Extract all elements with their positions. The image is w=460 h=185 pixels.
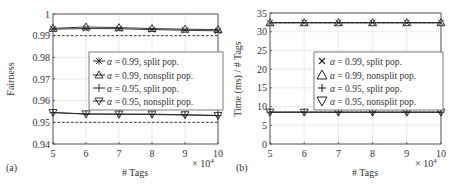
- x-exponent: × 104: [415, 157, 437, 169]
- svg-text:α = 0.99, split pop.: α = 0.99, split pop.: [330, 57, 402, 67]
- x-ticks: 5678910: [51, 142, 224, 159]
- svg-text:α = 0.99, nonsplit pop.: α = 0.99, nonsplit pop.: [330, 71, 416, 81]
- legend-item-alpha-099-nonsplit: α = 0.99, nonsplit pop.: [93, 71, 193, 81]
- x-tick-label: 7: [117, 148, 122, 159]
- y-tick-label: 0.95: [33, 117, 51, 128]
- y-tick-label: 20: [257, 64, 267, 75]
- legend-item-alpha-095-nonsplit: α = 0.95, nonsplit pop.: [317, 97, 416, 107]
- panel-label: (b): [236, 162, 248, 174]
- x-tick-label: 8: [370, 148, 375, 159]
- x-tick-label: 6: [84, 148, 89, 159]
- svg-text:α = 0.95, split pop.: α = 0.95, split pop.: [330, 84, 402, 94]
- y-tick-label: 1: [45, 9, 50, 20]
- series-line: [266, 19, 445, 26]
- x-tick-label: 5: [51, 148, 56, 159]
- x-tick-label: 6: [302, 148, 307, 159]
- y-tick-label: 35: [257, 8, 267, 19]
- y-tick-label: 0.98: [33, 52, 51, 63]
- x-exponent: × 104: [192, 157, 214, 169]
- svg-text:α = 0.95, split pop.: α = 0.95, split pop.: [107, 84, 179, 94]
- y-tick-label: 10: [257, 101, 267, 112]
- x-tick-label: 10: [213, 148, 223, 159]
- series-line: [49, 23, 222, 33]
- y-axis-label: Time (ms) / # Tags: [232, 41, 244, 117]
- x-tick-label: 7: [336, 148, 341, 159]
- legend-item-alpha-099-split: α = 0.99, split pop.: [319, 57, 402, 67]
- y-tick-label: 5: [262, 120, 267, 131]
- y-tick-label: 0.94: [33, 139, 51, 150]
- x-axis-label: # Tags: [122, 167, 148, 178]
- svg-text:α = 0.99, split pop.: α = 0.99, split pop.: [107, 57, 179, 67]
- y-tick-label: 30: [257, 26, 267, 37]
- series-line: [49, 110, 222, 120]
- legend-item-alpha-095-split: α = 0.95, split pop.: [318, 84, 402, 94]
- svg-text:α = 0.99, nonsplit pop.: α = 0.99, nonsplit pop.: [107, 71, 193, 81]
- y-tick-label: 0.97: [33, 74, 51, 85]
- y-tick-label: 0: [262, 139, 267, 150]
- panel-label: (a): [6, 162, 17, 174]
- legend: α = 0.99, split pop. α = 0.99, nonsplit …: [89, 52, 223, 110]
- x-tick-label: 9: [404, 148, 409, 159]
- y-tick-label: 0.96: [33, 95, 51, 106]
- x-axis-label: # Tags: [352, 167, 378, 178]
- x-tick-label: 8: [150, 148, 155, 159]
- x-tick-label: 10: [436, 148, 446, 159]
- x-tick-label: 5: [268, 148, 273, 159]
- y-tick-label: 25: [257, 45, 267, 56]
- legend: α = 0.99, split pop. α = 0.99, nonsplit …: [314, 52, 443, 110]
- x-ticks: 5678910: [268, 142, 447, 159]
- legend-item-alpha-095-nonsplit: α = 0.95, nonsplit pop.: [93, 97, 193, 107]
- y-ticks: 0.940.950.960.970.980.991: [33, 9, 56, 150]
- y-tick-label: 0.99: [33, 30, 51, 41]
- y-tick-label: 15: [257, 82, 267, 93]
- x-tick-label: 9: [183, 148, 188, 159]
- chart-time-per-tag: 05101520253035 5678910 Time (ms) / # Tag…: [230, 0, 460, 185]
- svg-text:α = 0.95, nonsplit pop.: α = 0.95, nonsplit pop.: [330, 97, 416, 107]
- chart-fairness: 0.940.950.960.970.980.991 5678910 Fairne…: [0, 0, 230, 185]
- svg-text:α = 0.95, nonsplit pop.: α = 0.95, nonsplit pop.: [107, 97, 193, 107]
- y-axis-label: Fairness: [5, 62, 16, 95]
- legend-item-alpha-099-nonsplit: α = 0.99, nonsplit pop.: [317, 70, 416, 81]
